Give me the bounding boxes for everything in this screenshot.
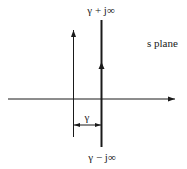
top-limit-label: γ + j∞ [86,4,115,16]
integration-direction-arrow-icon [99,62,105,69]
s-plane-label: s plane [147,37,178,49]
s-plane-diagram: γ + j∞ γ − j∞ γ s plane [0,0,187,169]
bottom-limit-label: γ − j∞ [87,151,116,163]
right-arrowhead-icon [95,123,101,127]
gamma-offset-label: γ [84,111,90,123]
left-arrowhead-icon [74,123,80,127]
